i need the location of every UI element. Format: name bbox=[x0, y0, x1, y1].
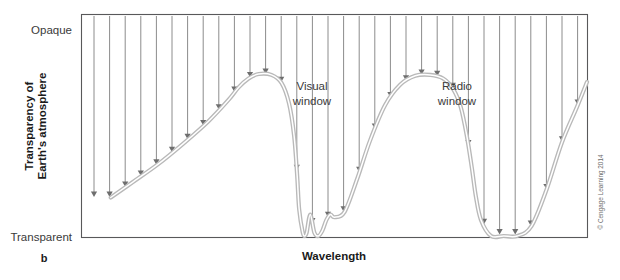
y-axis-top-label: Opaque bbox=[31, 24, 72, 36]
figure-container: Opaque Transparent Transparency of Earth… bbox=[0, 0, 620, 280]
plot-frame bbox=[82, 15, 588, 238]
atmospheric-transparency-figure: Opaque Transparent Transparency of Earth… bbox=[0, 0, 620, 280]
visual-window-label-line2: window bbox=[292, 95, 332, 107]
x-axis-title: Wavelength bbox=[302, 250, 366, 262]
y-axis-title: Transparency of Earth's atmosphere bbox=[23, 73, 48, 180]
visual-window-label-line1: Visual bbox=[296, 80, 327, 92]
copyright-credit: © Cengage Learning 2014 bbox=[597, 154, 605, 230]
radio-window-label-line2: window bbox=[437, 95, 477, 107]
y-axis-title-line1: Transparency of bbox=[23, 81, 35, 170]
panel-letter: b bbox=[41, 252, 48, 264]
y-axis-bottom-label: Transparent bbox=[10, 231, 72, 243]
radio-window-label-line1: Radio bbox=[442, 80, 472, 92]
y-axis-title-line2: Earth's atmosphere bbox=[36, 73, 48, 180]
